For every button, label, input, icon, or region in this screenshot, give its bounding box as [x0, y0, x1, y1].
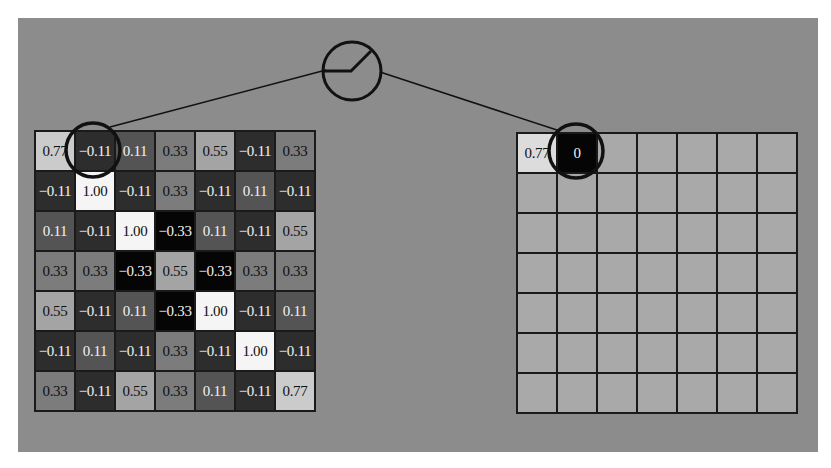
grid-cell: 0.33 — [155, 131, 195, 171]
grid-cell: −0.33 — [115, 251, 155, 291]
grid-cell — [717, 253, 757, 293]
grid-cell — [517, 173, 557, 213]
grid-cell: 0.11 — [35, 211, 75, 251]
grid-cell: 0.33 — [35, 251, 75, 291]
grid-cell: 0.11 — [115, 131, 155, 171]
grid-cell: 0.11 — [75, 331, 115, 371]
grid-cell — [557, 373, 597, 413]
grid-cell — [717, 373, 757, 413]
grid-cell — [757, 373, 797, 413]
grid-cell: −0.11 — [35, 171, 75, 211]
grid-cell — [637, 253, 677, 293]
grid-cell — [517, 333, 557, 373]
grid-cell — [677, 253, 717, 293]
grid-cell — [757, 213, 797, 253]
grid-cell: −0.11 — [195, 331, 235, 371]
grid-cell — [597, 333, 637, 373]
grid-cell — [677, 133, 717, 173]
grid-cell — [517, 253, 557, 293]
grid-cell: −0.33 — [195, 251, 235, 291]
grid-cell: −0.11 — [115, 171, 155, 211]
grid-cell: −0.11 — [195, 171, 235, 211]
grid-cell: 0.33 — [35, 371, 75, 411]
grid-cell — [757, 173, 797, 213]
grid-cell: −0.11 — [75, 291, 115, 331]
grid-cell: −0.11 — [235, 371, 275, 411]
grid-cell — [517, 293, 557, 333]
grid-cell: 0.11 — [235, 171, 275, 211]
grid-cell: 0.11 — [195, 371, 235, 411]
output-feature-map: 0.770 — [516, 132, 798, 414]
grid-cell — [637, 133, 677, 173]
grid-cell — [517, 213, 557, 253]
grid-cell — [597, 133, 637, 173]
grid-cell — [717, 133, 757, 173]
grid-cell: −0.11 — [235, 131, 275, 171]
grid-cell — [757, 333, 797, 373]
grid-cell — [557, 213, 597, 253]
grid-cell: −0.11 — [75, 211, 115, 251]
grid-cell — [597, 373, 637, 413]
grid-cell: 0.55 — [35, 291, 75, 331]
grid-cell: 0.33 — [155, 371, 195, 411]
grid-cell — [757, 293, 797, 333]
grid-cell: 1.00 — [235, 331, 275, 371]
grid-cell — [637, 213, 677, 253]
grid-cell: −0.11 — [235, 291, 275, 331]
grid-cell — [757, 133, 797, 173]
grid-cell: 0.33 — [75, 251, 115, 291]
grid-cell: −0.11 — [75, 131, 115, 171]
grid-cell — [677, 213, 717, 253]
grid-cell: 0.11 — [115, 291, 155, 331]
grid-cell: −0.33 — [155, 211, 195, 251]
grid-cell — [517, 373, 557, 413]
grid-cell — [597, 213, 637, 253]
grid-cell — [637, 173, 677, 213]
grid-cell: −0.11 — [35, 331, 75, 371]
input-feature-map: 0.77−0.110.110.330.55−0.110.33−0.111.00−… — [34, 130, 316, 412]
grid-cell: 0.55 — [115, 371, 155, 411]
grid-cell — [717, 293, 757, 333]
grid-cell — [597, 293, 637, 333]
grid-cell: 0.77 — [275, 371, 315, 411]
grid-cell — [557, 253, 597, 293]
grid-cell: 0.33 — [275, 131, 315, 171]
grid-cell: −0.11 — [75, 371, 115, 411]
grid-cell: 0.55 — [155, 251, 195, 291]
grid-cell: 1.00 — [75, 171, 115, 211]
grid-cell — [557, 293, 597, 333]
grid-cell: −0.33 — [155, 291, 195, 331]
grid-cell: 1.00 — [195, 291, 235, 331]
grid-cell: −0.11 — [275, 171, 315, 211]
grid-cell — [597, 173, 637, 213]
grid-cell: 0.55 — [195, 131, 235, 171]
grid-cell — [637, 333, 677, 373]
grid-cell — [677, 373, 717, 413]
grid-cell: 0.77 — [517, 133, 557, 173]
grid-cell: 0.33 — [275, 251, 315, 291]
grid-cell: 0.11 — [195, 211, 235, 251]
grid-cell: 0 — [557, 133, 597, 173]
grid-cell — [677, 333, 717, 373]
grid-cell — [597, 253, 637, 293]
grid-cell: 0.33 — [155, 331, 195, 371]
grid-cell: 0.33 — [235, 251, 275, 291]
grid-cell: 0.77 — [35, 131, 75, 171]
grid-cell — [677, 173, 717, 213]
grid-cell — [637, 373, 677, 413]
grid-cell — [637, 293, 677, 333]
grid-cell — [557, 173, 597, 213]
grid-cell — [717, 333, 757, 373]
grid-cell — [677, 293, 717, 333]
grid-cell — [757, 253, 797, 293]
grid-cell: 1.00 — [115, 211, 155, 251]
grid-cell: 0.33 — [155, 171, 195, 211]
grid-cell — [717, 213, 757, 253]
grid-cell: 0.55 — [275, 211, 315, 251]
grid-cell: 0.11 — [275, 291, 315, 331]
grid-cell — [557, 333, 597, 373]
grid-cell: −0.11 — [115, 331, 155, 371]
grid-cell: −0.11 — [235, 211, 275, 251]
grid-cell — [717, 173, 757, 213]
grid-cell: −0.11 — [275, 331, 315, 371]
